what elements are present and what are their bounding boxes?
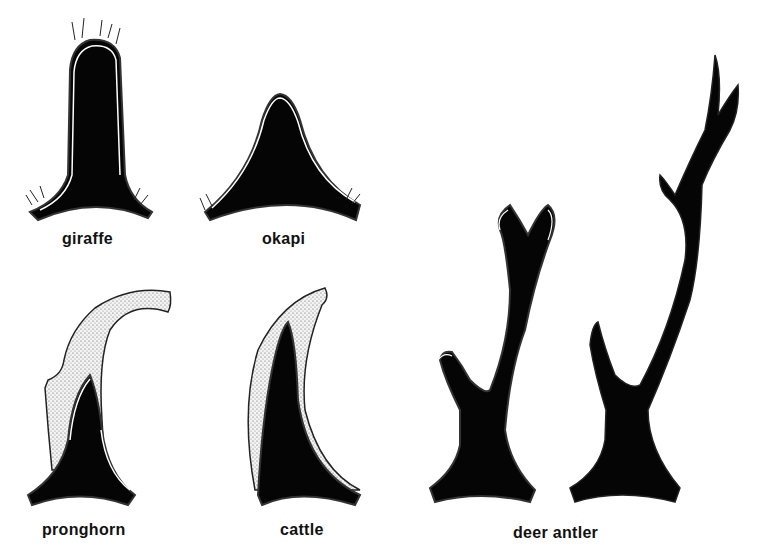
cattle-horn [248, 288, 360, 505]
okapi-ossicone [200, 94, 360, 220]
label-cattle: cattle [280, 521, 324, 539]
pronghorn-horn [28, 290, 171, 505]
label-okapi: okapi [262, 230, 305, 248]
diagram-drawing [0, 0, 760, 556]
horn-comparison-diagram: giraffe okapi pronghorn cattle deer antl… [0, 0, 760, 556]
label-deer-antler: deer antler [513, 524, 598, 542]
label-giraffe: giraffe [62, 230, 113, 248]
label-pronghorn: pronghorn [42, 521, 126, 539]
giraffe-ossicone [26, 18, 152, 220]
deer-antler-velvet [430, 205, 555, 502]
deer-antler-bare [570, 55, 738, 502]
